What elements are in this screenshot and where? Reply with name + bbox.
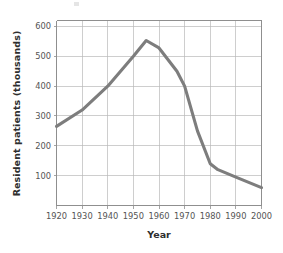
x-tick-label: 2000 [251,211,272,221]
x-tick-label: 1930 [72,211,93,221]
y-tick-labels: 100200300400500600 [35,21,51,180]
x-tick-label: 1950 [123,211,144,221]
x-axis-title-label: Year [147,229,171,240]
x-tick-label: 1980 [200,211,221,221]
y-tick-label: 500 [35,51,51,61]
x-tick-label: 1960 [148,211,169,221]
y-tick-label: 100 [35,171,51,181]
y-tick-label: 300 [35,111,51,121]
axis-tick-marks [54,26,262,208]
y-tick-label: 600 [35,21,51,31]
y-tick-label: 400 [35,81,51,91]
chart-figure: Resident patients (thousands) 1002003004… [0,0,283,253]
x-axis-title: Year [56,229,262,240]
x-tick-labels: 192019301940195019601970198019902000 [46,211,272,221]
x-tick-label: 1940 [97,211,118,221]
x-tick-label: 1970 [174,211,195,221]
x-tick-label: 1920 [46,211,67,221]
x-tick-label: 1990 [225,211,246,221]
line-chart-plot: 100200300400500600 192019301940195019601… [0,0,283,253]
y-tick-label: 200 [35,141,51,151]
